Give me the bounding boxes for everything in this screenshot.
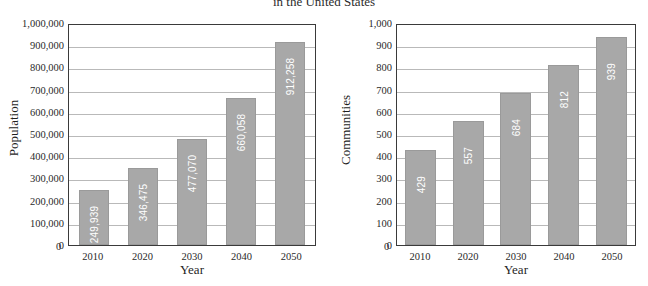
population-chart-y-tick: 100,000 <box>30 219 64 229</box>
communities-chart-x-tick: 2050 <box>588 251 636 262</box>
population-chart-y-tick: 700,000 <box>30 86 64 96</box>
population-chart-bar-2020: 346,475 <box>128 168 158 245</box>
communities-chart-y-tick: 300 <box>376 174 392 184</box>
communities-chart-y-tick: 800 <box>376 63 392 73</box>
population-chart-y-tick: 200,000 <box>30 197 64 207</box>
bar-group: 346,475 <box>118 25 167 245</box>
communities-chart-x-tick: 2010 <box>396 251 444 262</box>
communities-chart-bar-2050: 939 <box>596 37 627 245</box>
bar-group: 684 <box>492 25 540 245</box>
communities-chart-x-tick: 2030 <box>492 251 540 262</box>
communities-chart-y-tick: 600 <box>376 108 392 118</box>
population-chart-y-tick: 600,000 <box>30 108 64 118</box>
population-chart-x-tick: 2040 <box>217 251 267 262</box>
communities-chart-y-tick: 900 <box>376 41 392 51</box>
communities-chart-y-tick-zero: 0 <box>384 241 389 252</box>
population-chart-bar-value-label: 477,070 <box>187 146 198 202</box>
population-chart-bar-value-label: 660,058 <box>236 105 247 161</box>
population-chart-y-tick: 300,000 <box>30 174 64 184</box>
charts-container: Population 0100,000200,000300,000400,000… <box>0 12 648 286</box>
population-chart-y-tick: 500,000 <box>30 130 64 140</box>
communities-chart-bar-2030: 684 <box>500 93 531 245</box>
population-chart-x-tick: 2010 <box>68 251 118 262</box>
communities-chart-y-tick: 400 <box>376 152 392 162</box>
population-chart-y-tick: 1,000,000 <box>22 19 64 29</box>
communities-chart-x-tick: 2040 <box>540 251 588 262</box>
bar-group: 939 <box>587 25 635 245</box>
population-plot-area: 249,939346,475477,070660,058912,258 <box>68 24 316 246</box>
communities-chart-x-tick: 2020 <box>444 251 492 262</box>
communities-x-tick-labels: 20102020203020402050 <box>396 251 636 262</box>
communities-chart-bar-value-label: 939 <box>606 43 617 99</box>
population-chart: Population 0100,000200,000300,000400,000… <box>0 12 338 286</box>
population-chart-y-tick-zero: 0 <box>56 241 61 252</box>
communities-chart-y-tick: 500 <box>376 130 392 140</box>
population-chart-y-tick: 400,000 <box>30 152 64 162</box>
bar-group: 477,070 <box>167 25 216 245</box>
communities-chart-bar-value-label: 557 <box>463 128 474 184</box>
population-chart-y-tick: 800,000 <box>30 63 64 73</box>
bar-group: 429 <box>397 25 445 245</box>
communities-chart-bar-value-label: 812 <box>558 71 569 127</box>
population-chart-bar-value-label: 249,939 <box>88 196 99 246</box>
communities-chart-bar-value-label: 429 <box>415 156 426 212</box>
bar-group: 660,058 <box>217 25 266 245</box>
communities-chart-y-tick: 100 <box>376 219 392 229</box>
population-y-tick-labels: 0100,000200,000300,000400,000500,000600,… <box>0 12 64 266</box>
population-chart-bar-2010: 249,939 <box>79 190 109 245</box>
bar-group: 249,939 <box>69 25 118 245</box>
population-chart-x-tick: 2030 <box>167 251 217 262</box>
population-chart-bar-2040: 660,058 <box>226 98 256 245</box>
population-bars: 249,939346,475477,070660,058912,258 <box>69 25 315 245</box>
population-chart-bar-2030: 477,070 <box>177 139 207 245</box>
population-chart-bar-value-label: 346,475 <box>137 175 148 231</box>
population-chart-y-tick: 900,000 <box>30 41 64 51</box>
population-chart-bar-value-label: 912,258 <box>285 49 296 105</box>
communities-chart-y-tick: 200 <box>376 197 392 207</box>
communities-chart-y-tick: 700 <box>376 86 392 96</box>
page-title: in the United States <box>0 0 648 8</box>
communities-chart-bar-value-label: 684 <box>510 100 521 156</box>
bar-group: 557 <box>445 25 493 245</box>
communities-chart-bar-2020: 557 <box>453 121 484 245</box>
communities-chart-bar-2010: 429 <box>405 150 436 245</box>
population-chart-bar-2050: 912,258 <box>275 42 305 245</box>
communities-chart: Communities 0100200300400500600700800900… <box>338 12 648 286</box>
bar-group: 912,258 <box>266 25 315 245</box>
population-chart-x-tick: 2020 <box>118 251 168 262</box>
population-x-axis-label: Year <box>68 262 316 278</box>
communities-chart-bar-2040: 812 <box>548 65 579 245</box>
bar-group: 812 <box>540 25 588 245</box>
communities-bars: 429557684812939 <box>397 25 635 245</box>
population-chart-x-tick: 2050 <box>266 251 316 262</box>
population-x-tick-labels: 20102020203020402050 <box>68 251 316 262</box>
communities-plot-area: 429557684812939 <box>396 24 636 246</box>
communities-chart-y-tick: 1,000 <box>368 19 392 29</box>
communities-x-axis-label: Year <box>396 262 636 278</box>
communities-y-tick-labels: 01002003004005006007008009001,000 <box>338 12 392 266</box>
